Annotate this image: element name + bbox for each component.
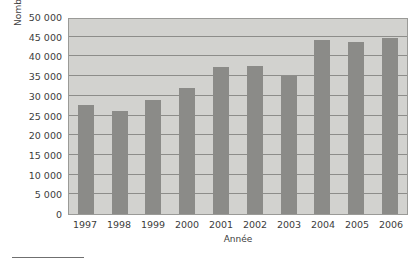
y-axis-tick-label: 50 000: [18, 13, 62, 23]
x-axis-tick-label: 1997: [68, 219, 102, 233]
x-axis-tick-label: 2003: [272, 219, 306, 233]
x-axis-tick-label: 2006: [374, 219, 408, 233]
bar: [247, 66, 263, 214]
bar: [145, 100, 161, 214]
y-axis-tick-label: 30 000: [18, 92, 62, 102]
y-axis-tick-label: 40 000: [18, 52, 62, 62]
bar: [348, 42, 364, 214]
x-axis-tick-label: 2004: [306, 219, 340, 233]
x-axis-tick-label: 1999: [136, 219, 170, 233]
y-axis-tick-label: 5 000: [18, 190, 62, 200]
x-axis-title: Année: [68, 234, 408, 244]
x-axis-tick-labels: 1997199819992000200120022003200420052006: [68, 219, 408, 233]
bar: [314, 40, 330, 214]
y-axis-tick-label: 0: [18, 210, 62, 220]
x-axis-tick-label: 2001: [204, 219, 238, 233]
plot-area: [68, 18, 408, 215]
x-axis-tick-label: 2002: [238, 219, 272, 233]
y-axis-tick-label: 20 000: [18, 131, 62, 141]
y-axis-tick-label: 35 000: [18, 72, 62, 82]
bar: [281, 76, 297, 214]
bar: [213, 67, 229, 214]
bar: [112, 111, 128, 214]
x-axis-tick-label: 1998: [102, 219, 136, 233]
x-axis-tick-label: 2000: [170, 219, 204, 233]
bar: [382, 38, 398, 214]
y-axis-tick-label: 25 000: [18, 112, 62, 122]
footnote-separator: [12, 257, 84, 258]
y-axis-tick-labels: 05 00010 00015 00020 00025 00030 00035 0…: [16, 0, 62, 267]
bar: [179, 88, 195, 214]
immigration-bar-chart: Nombre d'immigrants 05 00010 00015 00020…: [0, 0, 420, 267]
x-axis-tick-label: 2005: [340, 219, 374, 233]
bar-series: [69, 19, 407, 214]
y-axis-tick-label: 15 000: [18, 151, 62, 161]
y-axis-tick-label: 45 000: [18, 33, 62, 43]
y-axis-tick-label: 10 000: [18, 171, 62, 181]
bar: [78, 105, 94, 214]
